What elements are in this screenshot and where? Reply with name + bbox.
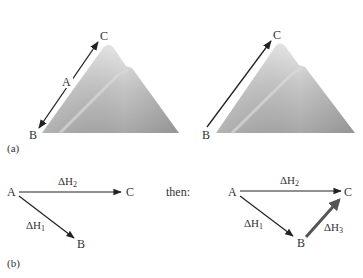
label-dh1-right: ΔH1: [244, 217, 263, 231]
label-a-left-b: B: [29, 128, 37, 142]
label-a-right-c: C: [273, 28, 281, 42]
connector-then: then:: [166, 185, 190, 199]
label-dh1-left: ΔH1: [26, 219, 45, 233]
label-b-left-c: C: [126, 185, 134, 199]
label-a-left-a: A: [62, 75, 71, 89]
label-dh2-left: ΔH2: [58, 175, 77, 189]
label-b-left-a: A: [7, 185, 16, 199]
panel-a-label: (a): [7, 142, 20, 155]
arrow-a-to-b-right: [240, 196, 293, 236]
label-a-right-b: B: [202, 128, 210, 142]
label-b-left-b: B: [77, 237, 85, 251]
label-b-right-a: A: [228, 185, 237, 199]
label-b-right-c: C: [344, 185, 352, 199]
label-dh3-right: ΔH3: [324, 221, 343, 235]
label-b-right-b: B: [297, 236, 305, 250]
mountain-right: [216, 43, 355, 133]
label-dh2-right: ΔH2: [280, 174, 299, 188]
arrow-a-to-b-left: [19, 196, 74, 238]
panel-b-label: (b): [7, 257, 20, 270]
label-a-left-c: C: [100, 29, 108, 43]
